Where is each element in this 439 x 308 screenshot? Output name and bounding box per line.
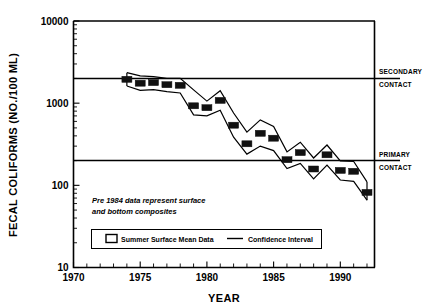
- data-marker: [322, 152, 332, 158]
- x-axis-title: YEAR: [208, 292, 240, 304]
- chart-canvas: FECAL COLIFORMS (NO./100 ML) YEAR 100001…: [0, 0, 439, 308]
- data-marker: [122, 76, 132, 82]
- legend-marker-label: Summer Surface Mean Data: [121, 236, 214, 243]
- fecal-coliforms-chart: FECAL COLIFORMS (NO./100 ML) YEAR 100001…: [0, 0, 439, 308]
- x-tick-label: 1975: [129, 272, 152, 283]
- data-marker: [335, 167, 345, 173]
- y-axis-title: FECAL COLIFORMS (NO./100 ML): [7, 53, 19, 237]
- y-tick-label: 100: [52, 180, 69, 191]
- legend-line-label: Confidence Interval: [248, 236, 313, 243]
- data-marker: [202, 105, 212, 111]
- note-line-2: and bottom composites: [92, 207, 177, 216]
- ref-label-primary-contact-2: CONTACT: [379, 164, 412, 171]
- chart-legend: Summer Surface Mean Data Confidence Inte…: [92, 230, 322, 249]
- ref-label-primary-contact-1: PRIMARY: [379, 151, 411, 158]
- data-marker: [282, 157, 292, 163]
- data-marker: [149, 80, 159, 86]
- data-marker: [349, 168, 359, 174]
- data-marker: [135, 80, 145, 86]
- data-marker: [162, 82, 172, 88]
- x-tick-label: 1980: [196, 272, 219, 283]
- y-tick-label: 10000: [41, 16, 69, 27]
- note-line-1: Pre 1984 data represent surface: [92, 196, 205, 205]
- data-marker: [362, 189, 372, 195]
- data-marker: [309, 166, 319, 172]
- x-tick-label: 1970: [62, 272, 85, 283]
- ref-label-secondary-contact-2: CONTACT: [379, 81, 412, 88]
- data-marker: [295, 150, 305, 156]
- y-tick-label: 1000: [46, 98, 69, 109]
- x-tick-label: 1985: [262, 272, 285, 283]
- data-marker: [175, 82, 185, 88]
- data-marker: [229, 122, 239, 128]
- data-marker: [242, 141, 252, 147]
- ref-label-secondary-contact-1: SECONDARY: [379, 68, 423, 75]
- data-marker: [255, 130, 265, 136]
- x-tick-label: 1990: [329, 272, 352, 283]
- data-marker: [189, 103, 199, 109]
- data-marker: [269, 135, 279, 141]
- data-marker: [215, 97, 225, 103]
- legend-marker-swatch: [106, 235, 117, 243]
